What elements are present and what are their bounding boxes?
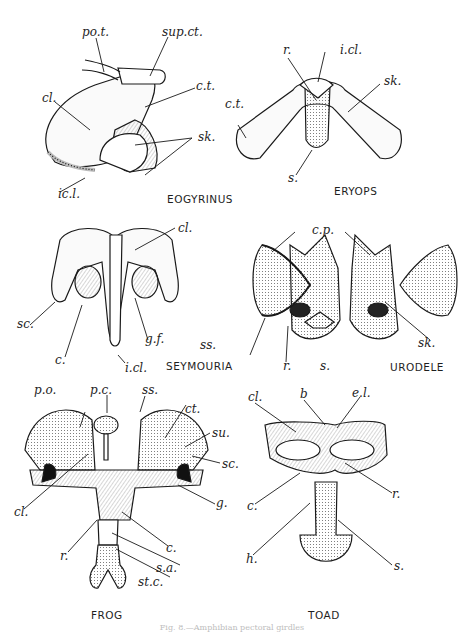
label-frog-g: g. [216, 497, 228, 509]
panel-title-frog: FROG [91, 610, 123, 621]
frog-drawing [25, 410, 208, 588]
label-frog-st-c: st.c. [138, 576, 163, 588]
label-frog-p-c: p.c. [90, 384, 112, 396]
label-toad-e-l: e.l. [352, 387, 371, 399]
label-seymouria-sc: sc. [17, 318, 34, 330]
label-eryops-i-cl: i.cl. [340, 44, 362, 56]
label-seymouria-c: c. [55, 354, 66, 366]
eryops-drawing [237, 78, 402, 159]
eogyrinus-drawing [46, 60, 165, 172]
label-frog-su: su. [212, 427, 230, 439]
label-urodele-s: s. [320, 360, 330, 372]
label-toad-cl: cl. [248, 391, 262, 403]
label-frog-sc: sc. [222, 458, 239, 470]
label-frog-c: c. [166, 542, 177, 554]
panel-title-eogyrinus: EOGYRINUS [167, 194, 233, 205]
label-eogyrinus-po-t: po.t. [82, 26, 109, 38]
label-eogyrinus-sup-ct: sup.ct. [162, 26, 203, 38]
label-eryops-sk: sk. [384, 75, 401, 87]
label-urodele-ss: ss. [200, 339, 216, 351]
label-frog-ss: ss. [142, 384, 158, 396]
label-frog-r: r. [60, 550, 68, 562]
label-toad-h: h. [246, 553, 258, 565]
label-eryops-r: r. [283, 44, 291, 56]
panel-title-seymouria: SEYMOURIA [166, 361, 233, 372]
label-eogyrinus-c-t: c.t. [196, 80, 215, 92]
toad-drawing [265, 421, 387, 561]
urodele-drawing [253, 235, 457, 339]
label-seymouria-cl: cl. [178, 222, 192, 234]
label-toad-s: s. [394, 560, 404, 572]
pectoral-girdle-drawings [0, 0, 464, 636]
label-frog-cl: cl. [14, 506, 28, 518]
panel-title-toad: TOAD [308, 610, 340, 621]
label-frog-ct: ct. [185, 403, 200, 415]
label-toad-b: b [300, 388, 308, 400]
panel-title-eryops: ERYOPS [334, 186, 377, 197]
label-frog-p-o: p.o. [34, 384, 56, 396]
label-urodele-sk: sk. [418, 337, 435, 349]
seymouria-drawing [52, 228, 179, 346]
label-eryops-c-t: c.t. [225, 98, 244, 110]
label-seymouria-i-cl: i.cl. [125, 362, 147, 374]
label-eogyrinus-cl: cl. [42, 92, 56, 104]
label-toad-r: r. [392, 488, 400, 500]
label-eogyrinus-ic-l: ic.l. [58, 188, 80, 200]
label-eryops-s: s. [288, 172, 298, 184]
label-seymouria-g-f: g.f. [145, 333, 164, 345]
label-eogyrinus-sk: sk. [198, 131, 215, 143]
figure-caption: Fig. 8.—Amphibian pectoral girdles [0, 624, 464, 632]
label-urodele-r: r. [283, 360, 291, 372]
label-frog-s-a: s.a. [156, 562, 177, 574]
label-urodele-c-p: c.p. [312, 224, 334, 236]
label-toad-c: c. [247, 500, 258, 512]
panel-title-urodele: URODELE [390, 362, 444, 373]
